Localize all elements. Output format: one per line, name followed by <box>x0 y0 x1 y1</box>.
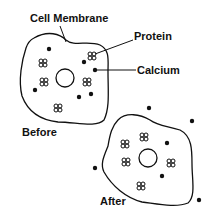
protein-cluster-icon <box>137 182 145 190</box>
calcium-dot-icon <box>93 166 97 170</box>
calcium-dot-icon <box>147 106 151 110</box>
calcium-dot-icon <box>89 92 93 96</box>
calcium-dot-icon <box>77 95 81 99</box>
protein-cluster-icon <box>140 133 148 141</box>
protein-cluster-icon <box>88 52 96 60</box>
calcium-dot-icon <box>165 141 169 145</box>
protein-cluster-icon <box>39 59 47 67</box>
before-cell-membrane <box>20 34 108 125</box>
calcium-dot-icon <box>160 174 164 178</box>
calcium-dot-icon <box>33 88 37 92</box>
diagram-canvas <box>0 0 209 222</box>
protein-cluster-icon <box>40 78 48 86</box>
after-cell-membrane <box>102 115 193 206</box>
calcium-dot-icon <box>197 198 201 202</box>
protein-leader-line <box>95 40 133 54</box>
protein-cluster-icon <box>83 78 91 86</box>
cell-membrane-label: Cell Membrane <box>30 13 108 24</box>
calcium-dot-icon <box>190 119 194 123</box>
membrane-leader-line <box>60 26 66 42</box>
after-label: After <box>100 196 126 207</box>
protein-cluster-icon <box>121 140 129 148</box>
after-cell <box>93 106 201 206</box>
calcium-dot-icon <box>82 60 86 64</box>
before-label: Before <box>22 127 57 138</box>
protein-cluster-icon <box>54 104 62 112</box>
calcium-label: Calcium <box>137 65 180 76</box>
calcium-dot-icon <box>47 47 51 51</box>
before-cell <box>20 26 136 124</box>
nucleus-circle-icon <box>139 149 157 167</box>
nucleus-circle-icon <box>56 69 74 87</box>
protein-cluster-icon <box>122 158 130 166</box>
protein-label: Protein <box>134 31 172 42</box>
protein-cluster-icon <box>167 159 175 167</box>
